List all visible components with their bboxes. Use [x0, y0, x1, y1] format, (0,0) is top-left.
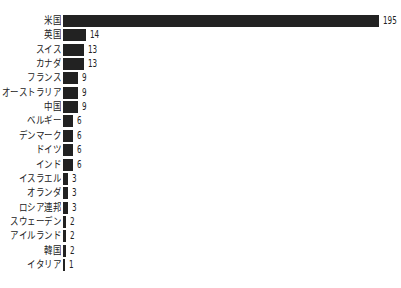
bar-row: インド6 [0, 158, 401, 172]
value-label: 13 [88, 57, 97, 71]
category-label: カナダ [36, 57, 62, 71]
category-label: インド [36, 158, 62, 172]
value-label: 6 [77, 114, 82, 128]
bar [63, 202, 68, 214]
bar-row: アイルランド2 [0, 229, 401, 243]
value-label: 9 [82, 86, 87, 100]
category-label: フランス [27, 71, 61, 85]
category-label: イスラエル [19, 172, 62, 186]
category-label: オーストラリア [2, 86, 62, 100]
category-label: 中国 [44, 100, 61, 114]
value-label: 1 [69, 258, 74, 272]
bar-row: 中国9 [0, 100, 401, 114]
value-label: 9 [82, 100, 87, 114]
category-label: スイス [36, 43, 62, 57]
value-label: 6 [77, 143, 82, 157]
value-label: 6 [77, 158, 82, 172]
bar [63, 173, 68, 185]
bar [63, 72, 78, 84]
bar [63, 144, 73, 156]
bar-row: イタリア1 [0, 258, 401, 272]
bar-row: オーストラリア9 [0, 86, 401, 100]
value-label: 2 [70, 229, 75, 243]
bar-row: デンマーク6 [0, 129, 401, 143]
bar [63, 216, 66, 228]
bar-chart: 米国195英国14スイス13カナダ13フランス9オーストラリア9中国9ベルギー6… [0, 0, 401, 288]
bar [63, 15, 379, 27]
value-label: 13 [88, 43, 97, 57]
bar-row: スイス13 [0, 43, 401, 57]
category-label: ロシア連邦 [19, 201, 62, 215]
bar-row: 韓国2 [0, 244, 401, 258]
bar-row: 米国195 [0, 14, 401, 28]
bar-row: オランダ3 [0, 186, 401, 200]
category-label: オランダ [27, 186, 61, 200]
bar [63, 130, 73, 142]
bar-row: ドイツ6 [0, 143, 401, 157]
category-label: 米国 [44, 14, 61, 28]
value-label: 14 [90, 28, 99, 42]
bar-row: カナダ13 [0, 57, 401, 71]
bar [63, 187, 68, 199]
category-label: アイルランド [10, 229, 61, 243]
bar [63, 29, 86, 41]
value-label: 2 [70, 215, 75, 229]
bar-row: ロシア連邦3 [0, 201, 401, 215]
bar [63, 101, 78, 113]
category-label: ドイツ [36, 143, 62, 157]
value-label: 3 [72, 186, 77, 200]
category-label: スウェーデン [10, 215, 61, 229]
bar [63, 230, 66, 242]
category-label: 英国 [44, 28, 61, 42]
bar-row: フランス9 [0, 71, 401, 85]
bar-row: イスラエル3 [0, 172, 401, 186]
value-label: 195 [383, 14, 397, 28]
bar-row: ベルギー6 [0, 114, 401, 128]
category-label: デンマーク [19, 129, 62, 143]
bar [63, 58, 84, 70]
bar-row: スウェーデン2 [0, 215, 401, 229]
bar [63, 44, 84, 56]
bar [63, 259, 65, 271]
bar-row: 英国14 [0, 28, 401, 42]
value-label: 9 [82, 71, 87, 85]
bar [63, 87, 78, 99]
bar [63, 115, 73, 127]
category-label: イタリア [27, 258, 61, 272]
value-label: 3 [72, 172, 77, 186]
bar [63, 245, 66, 257]
value-label: 2 [70, 244, 75, 258]
value-label: 3 [72, 201, 77, 215]
value-label: 6 [77, 129, 82, 143]
category-label: ベルギー [27, 114, 61, 128]
bar [63, 159, 73, 171]
category-label: 韓国 [44, 244, 61, 258]
